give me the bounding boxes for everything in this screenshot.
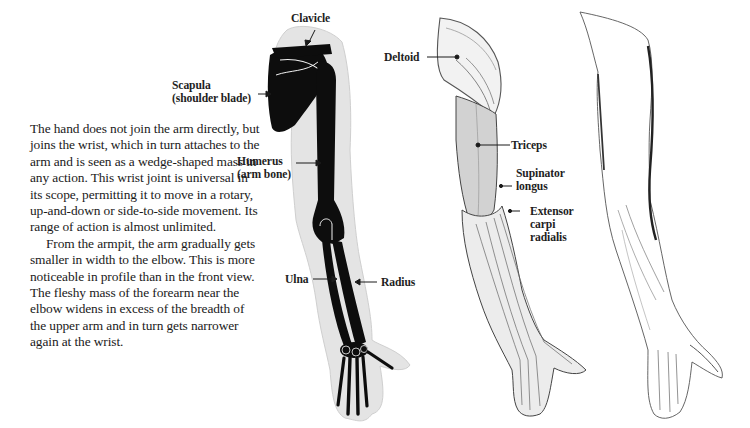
label-radius: Radius [381,276,415,289]
label-humerus-line2: (arm bone) [237,168,291,181]
label-extensor-carpi-radialis: Extensor carpi radialis [530,205,574,244]
label-humerus-line1: Humerus [237,155,291,168]
surface-figure [580,12,722,418]
carpal-bones [340,342,368,358]
skeleton-figure [268,26,410,420]
arm-illustrations [0,0,750,428]
label-clavicle: Clavicle [291,12,330,25]
label-triceps: Triceps [511,139,547,152]
label-ulna: Ulna [285,273,308,286]
label-extensor-line3: radialis [530,231,574,244]
label-supinator-line1: Supinator [516,167,565,180]
label-deltoid: Deltoid [384,51,419,64]
label-scapula-line2: (shoulder blade) [172,92,251,105]
label-supinator-line2: longus [516,180,565,193]
label-extensor-line1: Extensor [530,205,574,218]
label-supinator-longus: Supinator longus [516,167,565,193]
label-scapula-line1: Scapula [172,79,251,92]
label-humerus: Humerus (arm bone) [237,155,291,181]
label-scapula: Scapula (shoulder blade) [172,79,251,105]
label-extensor-line2: carpi [530,218,574,231]
